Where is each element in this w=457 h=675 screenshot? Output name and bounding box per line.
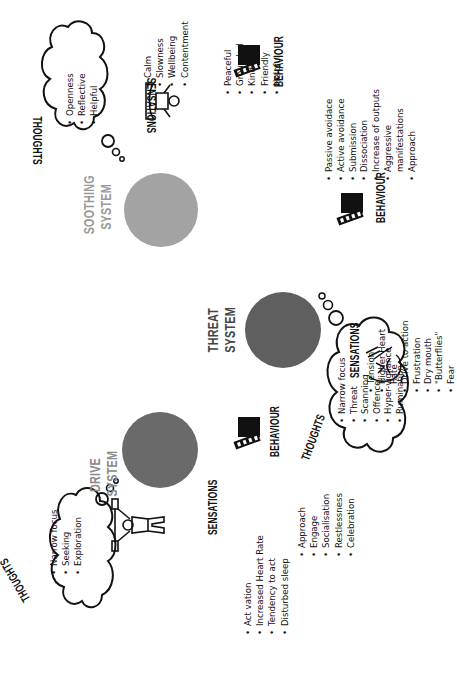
soothing-behaviour-list: Peaceful Grounded Kind Friendly Helpful [222,44,283,95]
list-item: Slowness [154,21,166,87]
list-item: Seeking [60,510,72,575]
list-item: Openness [64,73,76,125]
list-item: Approach [296,493,308,557]
list-item: Rate [389,321,400,393]
threat-thought-bubbles [318,291,346,325]
list-item: Peaceful [222,44,234,95]
list-item: Dissociation [359,89,371,181]
list-item: Contentment [179,21,191,87]
list-item: Dry mouth [423,321,434,393]
list-item: Submission [348,89,360,181]
list-item: manifestations [395,89,407,181]
list-item: Helpful [271,44,283,95]
drive-behaviour-list: Approach Engage Socialisation Restlessne… [296,493,357,557]
list-item: Act vation [242,535,254,635]
list-item: Narrow focus [337,347,349,423]
list-item: Fear [446,321,457,393]
list-item: Drive to action [400,321,411,393]
list-item: Tension [366,321,377,393]
list-item: Increased Heart Rate [254,535,266,635]
list-item: Restlessness [333,493,345,557]
list-item: Helpful [88,73,100,125]
drive-system-label: DRIVE SYSTEM [86,453,120,496]
list-item: Reflective [76,73,88,125]
soothing-sensations-list: Calm Slowness Wellbeing Contentment [142,21,191,87]
list-item: Passive avoidace [324,89,336,181]
list-item: Kind [246,44,258,95]
list-item: Aggressive [383,89,395,181]
soothing-system-label: SOOTHING SYSTEM [80,180,114,235]
list-item: Wellbeing [166,21,178,87]
list-item: Grounded [234,44,246,95]
list-item: Increase of outputs [371,89,383,181]
threat-behaviour-list: Passive avoidace Active avoidance Submis… [324,89,418,181]
drive-thoughts-list: Narrow focus Seeking Exploration [48,510,85,575]
threat-sensations-list: Tension Higher Heart Rate Drive to actio… [366,321,457,393]
list-item: "Butterflies" [434,321,445,393]
list-item: Active avoidance [336,89,348,181]
list-item: Narrow focus [48,510,60,575]
list-item: Exploration [72,510,84,575]
threat-clapperboard-icon [335,191,365,223]
weightlifter-icon [108,495,168,555]
threat-system-circle [245,292,321,368]
list-item: Engage [308,493,320,557]
soothing-thought-bubbles [98,133,128,163]
threat-sensations-heading: SENSATIONS [348,323,362,378]
drive-clapperboard-icon [232,415,262,447]
list-item: Socialisation [320,493,332,557]
drive-behaviour-heading: BEHAVIOUR [268,406,282,457]
list-item: Approach [407,89,419,181]
soothing-system-circle [124,173,198,247]
list-item: Tendency to act [266,535,278,635]
list-item: Calm [142,21,154,87]
soothing-thoughts-list: Openness Reflective Helpful [64,73,101,125]
list-item: Disturbed sleep [279,535,291,635]
threat-system-label: THREAT SYSTEM [204,306,238,354]
list-item: Frustration [412,321,423,393]
drive-sensations-heading: SENSATIONS [206,480,220,535]
list-item: Friendly [259,44,271,95]
drive-sensations-list: Act vation Increased Heart Rate Tendency… [242,535,291,635]
list-item: Celebration [345,493,357,557]
soothing-thoughts-heading: THOUGHTS [30,116,44,164]
drive-system-circle [122,412,198,488]
list-item: Higher Heart [377,321,388,393]
drive-thoughts-heading: THOUGHTS [0,556,33,605]
